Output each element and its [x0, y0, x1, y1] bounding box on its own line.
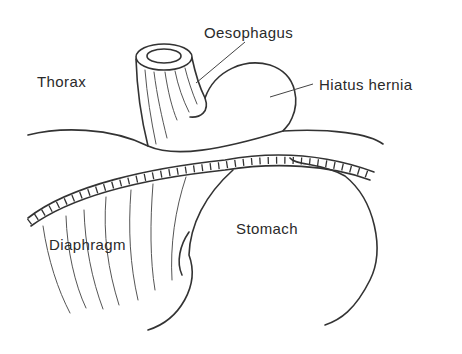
anatomy-drawing [0, 0, 462, 354]
oesophagus-shape [136, 44, 205, 146]
stomach-shape [148, 158, 377, 330]
label-hiatus-hernia: Hiatus hernia [319, 76, 413, 93]
hiatus-hernia-shape [190, 63, 296, 131]
hiatus-hernia-diagram: Oesophagus Thorax Hiatus hernia Diaphrag… [0, 0, 462, 354]
hiatus-hernia-leader [270, 84, 313, 97]
label-oesophagus: Oesophagus [204, 24, 293, 41]
diaphragm-band [28, 155, 374, 226]
label-stomach: Stomach [236, 220, 298, 237]
thorax-line [28, 130, 383, 152]
label-diaphragm: Diaphragm [49, 236, 126, 253]
label-thorax: Thorax [37, 73, 86, 90]
oesophagus-leader [196, 42, 245, 83]
